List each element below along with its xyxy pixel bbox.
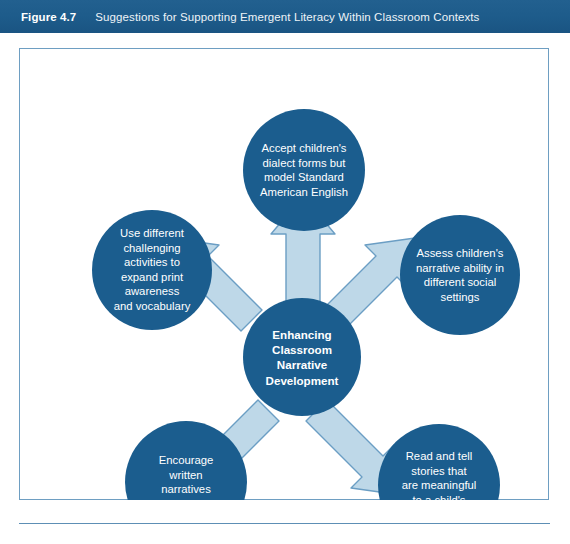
node-circle-upper-right (400, 215, 520, 335)
node-circle-lower-right (378, 424, 500, 500)
figure-root: Figure 4.7 Suggestions for Supporting Em… (0, 0, 570, 544)
node-circle-top (243, 109, 365, 231)
node-circle-center (243, 298, 361, 416)
node-circle-upper-left (92, 210, 212, 330)
figure-number: Figure 4.7 (21, 11, 76, 23)
figure-header-bar: Figure 4.7 Suggestions for Supporting Em… (0, 0, 570, 33)
diagram-canvas: Accept children's dialect forms but mode… (19, 48, 549, 500)
figure-footer-rule (19, 523, 550, 524)
figure-title: Suggestions for Supporting Emergent Lite… (95, 11, 479, 23)
hub-and-spoke-diagram (19, 48, 549, 500)
